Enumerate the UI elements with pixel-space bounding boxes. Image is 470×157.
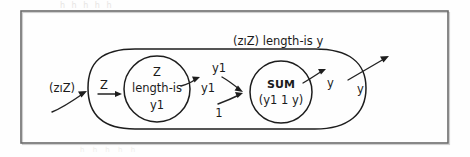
sum-node-line2: (y1 1 y): [259, 93, 304, 107]
length-is-output-label: y1: [201, 81, 215, 95]
external-input-arrow: (zıZ): [49, 81, 87, 112]
stadium-input-arrow: Z: [98, 78, 122, 97]
sum-input-bottom-arrow: 1: [215, 92, 243, 120]
stadium-input-label: Z: [100, 78, 108, 92]
outer-output-label: y: [357, 82, 364, 96]
length-is-output-arrow: y1: [181, 77, 215, 96]
sum-output-label: y: [327, 76, 334, 90]
figure-screenshot: h h h h h h h h h h (zıZ) length-is y (z…: [0, 0, 470, 157]
sum-input-top-arrow: y1: [212, 61, 243, 92]
sum-input-top-label: y1: [212, 61, 226, 75]
sum-input-bottom-label: 1: [215, 106, 222, 120]
length-is-node-line1: Z: [153, 65, 161, 79]
outer-label-text: (zıZ) length-is y: [233, 34, 323, 48]
sum-node-line1: SUM: [267, 78, 295, 91]
length-is-node-line2: length-is: [132, 81, 182, 95]
dataflow-diagram: (zıZ) length-is y (zıZ) Z Z length-is y1…: [0, 0, 470, 157]
external-input-label: (zıZ): [49, 81, 75, 95]
outer-output-arrow: y: [348, 56, 389, 96]
sum-output-arrow: y: [303, 69, 334, 90]
length-is-node-line3: y1: [150, 98, 164, 112]
length-is-node: Z length-is y1: [124, 56, 190, 122]
outer-stadium-boundary: [88, 49, 366, 129]
sum-node: SUM (y1 1 y): [250, 61, 312, 123]
outer-stadium-label: (zıZ) length-is y: [233, 34, 323, 48]
figure-frame: [21, 11, 450, 145]
